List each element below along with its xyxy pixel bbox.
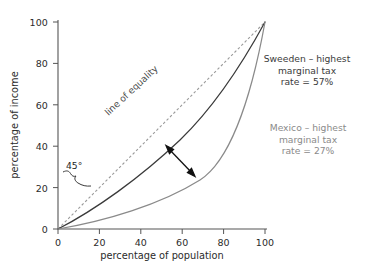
x-tick-label-60: 60 xyxy=(176,237,188,248)
y-tick-label-20: 20 xyxy=(26,182,48,193)
x-tick-label-40: 40 xyxy=(135,237,147,248)
y-tick-label-60: 60 xyxy=(26,99,48,110)
x-axis-title: percentage of population xyxy=(100,250,224,261)
y-tick-label-100: 100 xyxy=(21,17,48,28)
x-tick-label-0: 0 xyxy=(55,237,61,248)
line-of-equality xyxy=(58,22,265,229)
y-tick-label-40: 40 xyxy=(26,141,48,152)
x-tick-label-20: 20 xyxy=(93,237,105,248)
angle-45-label: 45° xyxy=(66,160,82,171)
y-axis-title: percentage of income xyxy=(9,71,20,178)
x-axis-ticks xyxy=(58,229,265,234)
lorenz-curve-figure: 0 20 40 60 80 100 0 20 40 60 80 100 perc… xyxy=(0,0,371,273)
x-tick-label-100: 100 xyxy=(256,237,274,248)
sweden-annotation-label: Sweeden – highest marginal tax rate = 57… xyxy=(251,53,363,88)
y-tick-label-80: 80 xyxy=(26,58,48,69)
x-tick-label-80: 80 xyxy=(217,237,229,248)
gap-arrow xyxy=(166,146,195,177)
y-axis-ticks xyxy=(53,22,58,229)
mexico-annotation-label: Mexico – highest marginal tax rate = 27% xyxy=(253,122,363,157)
y-tick-label-0: 0 xyxy=(26,224,48,235)
angle-brace xyxy=(63,171,91,186)
